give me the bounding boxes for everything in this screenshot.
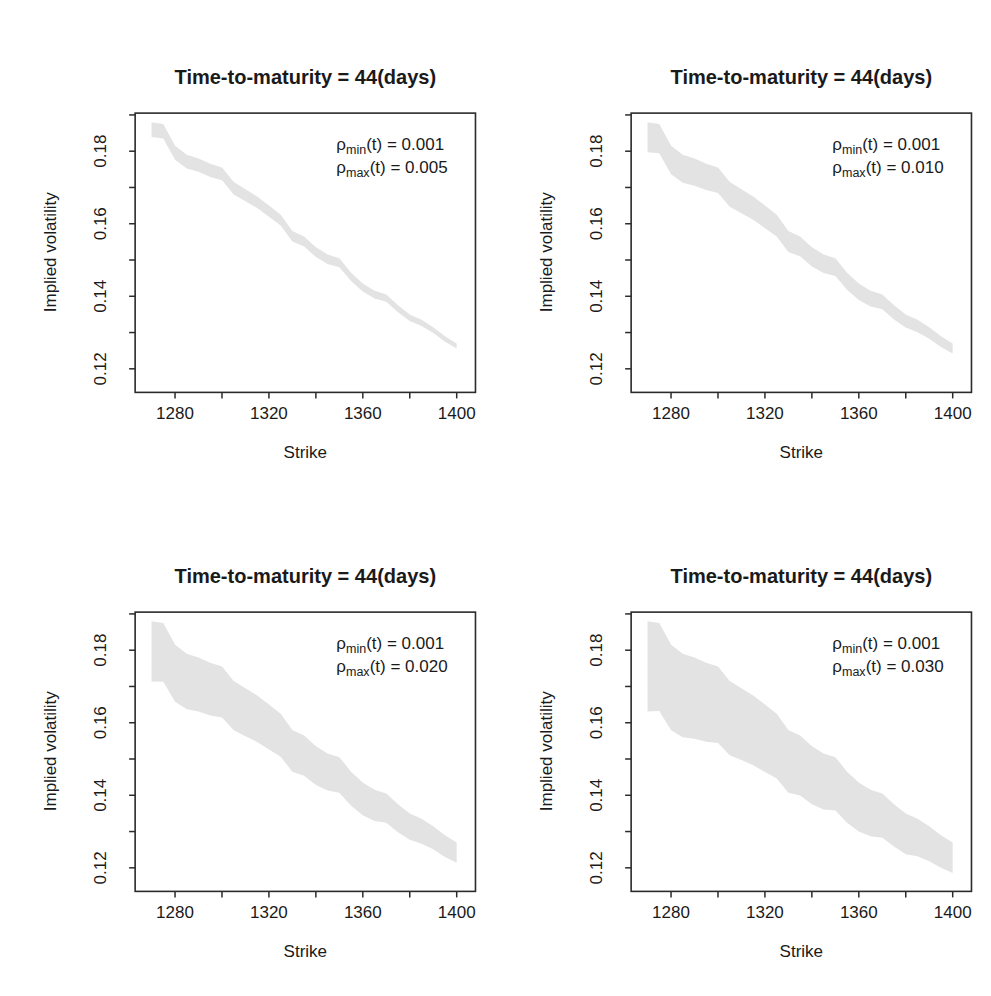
panel-title: Time-to-maturity = 44(days) — [175, 565, 437, 587]
chart-top-right: Time-to-maturity = 44(days)1280132013601… — [496, 0, 991, 499]
legend-rho-min: ρmin(t) = 0.001 — [336, 135, 444, 157]
y-axis-label: Implied volatility — [537, 690, 556, 810]
y-axis-tick-label: 0.12 — [91, 352, 110, 385]
chart-bottom-right: Time-to-maturity = 44(days)1280132013601… — [496, 499, 991, 996]
y-axis-tick-label: 0.14 — [587, 280, 606, 313]
x-axis-label: Strike — [284, 942, 327, 961]
legend-rho-max: ρmax(t) = 0.030 — [832, 657, 943, 679]
legend-rho-max: ρmax(t) = 0.020 — [336, 657, 447, 679]
x-axis-label: Strike — [779, 942, 822, 961]
y-axis-tick-label: 0.14 — [91, 778, 110, 811]
x-axis-tick-label: 1320 — [746, 903, 784, 922]
x-axis-tick-label: 1320 — [250, 404, 288, 423]
panel-top-left: Time-to-maturity = 44(days)1280132013601… — [0, 0, 496, 499]
panel-top-right: Time-to-maturity = 44(days)1280132013601… — [496, 0, 991, 499]
x-axis-tick-label: 1400 — [933, 404, 971, 423]
x-axis-label: Strike — [779, 443, 822, 462]
y-axis-tick-label: 0.18 — [587, 633, 606, 666]
y-axis-label: Implied volatility — [537, 192, 556, 312]
y-axis-tick-label: 0.12 — [587, 851, 606, 884]
chart-bottom-left: Time-to-maturity = 44(days)1280132013601… — [0, 499, 496, 996]
y-axis-tick-label: 0.12 — [91, 851, 110, 884]
panel-bottom-right: Time-to-maturity = 44(days)1280132013601… — [496, 499, 991, 996]
volatility-band — [152, 122, 457, 348]
x-axis-tick-label: 1360 — [839, 903, 877, 922]
panel-title: Time-to-maturity = 44(days) — [670, 565, 932, 587]
x-axis-tick-label: 1280 — [156, 903, 194, 922]
y-axis-label: Implied volatility — [41, 192, 60, 312]
x-axis-tick-label: 1280 — [156, 404, 194, 423]
x-axis-tick-label: 1360 — [344, 903, 382, 922]
y-axis-tick-label: 0.14 — [91, 280, 110, 313]
x-axis-tick-label: 1280 — [652, 404, 690, 423]
x-axis-tick-label: 1400 — [438, 903, 476, 922]
y-axis-tick-label: 0.12 — [587, 352, 606, 385]
x-axis-label: Strike — [284, 443, 327, 462]
legend-rho-max: ρmax(t) = 0.010 — [832, 158, 943, 180]
x-axis-tick-label: 1280 — [652, 903, 690, 922]
y-axis-tick-label: 0.18 — [587, 135, 606, 168]
y-axis-tick-label: 0.16 — [587, 706, 606, 739]
y-axis-tick-label: 0.16 — [587, 207, 606, 240]
y-axis-tick-label: 0.18 — [91, 633, 110, 666]
y-axis-tick-label: 0.14 — [587, 778, 606, 811]
x-axis-tick-label: 1320 — [746, 404, 784, 423]
panel-title: Time-to-maturity = 44(days) — [670, 66, 932, 88]
x-axis-tick-label: 1360 — [344, 404, 382, 423]
legend-rho-min: ρmin(t) = 0.001 — [336, 634, 444, 656]
y-axis-tick-label: 0.16 — [91, 207, 110, 240]
x-axis-tick-label: 1400 — [933, 903, 971, 922]
x-axis-tick-label: 1320 — [250, 903, 288, 922]
legend-rho-max: ρmax(t) = 0.005 — [336, 158, 447, 180]
y-axis-tick-label: 0.16 — [91, 706, 110, 739]
panel-bottom-left: Time-to-maturity = 44(days)1280132013601… — [0, 499, 496, 996]
legend-rho-min: ρmin(t) = 0.001 — [832, 634, 940, 656]
figure-volatility-bands: Time-to-maturity = 44(days)1280132013601… — [0, 0, 991, 996]
panel-title: Time-to-maturity = 44(days) — [175, 66, 437, 88]
volatility-band — [647, 122, 952, 353]
legend-rho-min: ρmin(t) = 0.001 — [832, 135, 940, 157]
chart-top-left: Time-to-maturity = 44(days)1280132013601… — [0, 0, 496, 499]
x-axis-tick-label: 1400 — [438, 404, 476, 423]
y-axis-tick-label: 0.18 — [91, 135, 110, 168]
x-axis-tick-label: 1360 — [839, 404, 877, 423]
y-axis-label: Implied volatility — [41, 690, 60, 810]
